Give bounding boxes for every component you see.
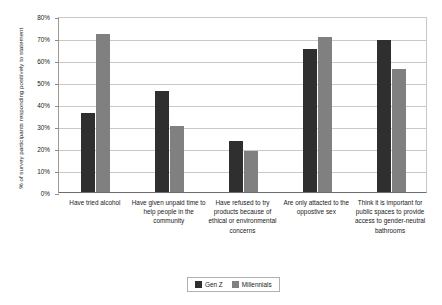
legend-label: Gen Z (205, 281, 223, 288)
bar-millennials[interactable] (318, 37, 332, 192)
bar-gen-z[interactable] (229, 141, 243, 192)
bar-chart: % of survey participants responding posi… (0, 0, 442, 305)
y-axis-tick-mark (55, 150, 59, 151)
legend-item[interactable]: Gen Z (195, 281, 223, 288)
bar-gen-z[interactable] (81, 113, 95, 192)
y-axis-tick-label: 60% (0, 58, 50, 65)
bar-group (377, 18, 406, 192)
legend-swatch-icon (195, 281, 202, 288)
bar-group (229, 18, 258, 192)
bar-gen-z[interactable] (377, 40, 391, 192)
bar-group (155, 18, 184, 192)
x-axis-category-label: Have tried alcohol (57, 198, 133, 207)
y-axis-tick-label: 50% (0, 80, 50, 87)
y-axis-tick-mark (55, 172, 59, 173)
y-axis-tick-mark (55, 106, 59, 107)
y-axis-tick-mark (55, 84, 59, 85)
bar-millennials[interactable] (170, 126, 184, 192)
plot-area (58, 17, 427, 193)
x-axis-category-label: Have refused to try products because of … (205, 198, 281, 235)
bar-group (303, 18, 332, 192)
bar-gen-z[interactable] (303, 49, 317, 192)
y-axis-tick-label: 20% (0, 146, 50, 153)
x-axis-category-label: Are only attacted to the oppostive sex (278, 198, 354, 216)
bar-millennials[interactable] (244, 151, 258, 192)
legend-swatch-icon (232, 281, 239, 288)
y-axis-tick-label: 80% (0, 14, 50, 21)
y-axis-tick-label: 40% (0, 102, 50, 109)
y-axis-tick-mark (55, 40, 59, 41)
x-axis-category-label: Think it is important for public spaces … (352, 198, 428, 235)
bar-gen-z[interactable] (155, 91, 169, 192)
x-axis-category-label: Have given unpaid time to help people in… (131, 198, 207, 226)
y-axis-tick-mark (55, 128, 59, 129)
chart-legend: Gen ZMillennials (187, 277, 280, 292)
legend-item[interactable]: Millennials (232, 281, 272, 288)
y-axis-tick-mark (55, 194, 59, 195)
bar-millennials[interactable] (392, 69, 406, 192)
y-axis-tick-mark (55, 18, 59, 19)
bar-millennials[interactable] (96, 34, 110, 192)
y-axis-tick-label: 30% (0, 124, 50, 131)
bar-group (81, 18, 110, 192)
legend-label: Millennials (242, 281, 272, 288)
y-axis-tick-label: 70% (0, 36, 50, 43)
y-axis-tick-label: 10% (0, 168, 50, 175)
y-axis-tick-mark (55, 62, 59, 63)
y-axis-tick-label: 0% (0, 190, 50, 197)
